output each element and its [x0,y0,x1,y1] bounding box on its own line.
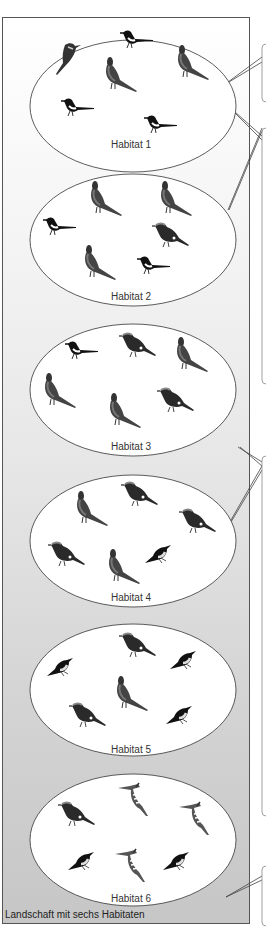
diagram-caption: Landschaft mit sechs Habitaten [5,909,145,920]
habitat-1: Habitat 1 [30,30,236,172]
habitat-label: Habitat 6 [111,893,151,904]
habitat-4: Habitat 4 [30,475,236,607]
habitat-label: Habitat 2 [111,291,151,302]
habitat-diagram: Habitat 1 Habitat 2 Habitat 3 Habitat 4 [0,0,266,932]
habitat-label: Habitat 5 [111,744,151,755]
callout-lines [224,57,262,897]
habitat-label: Habitat 4 [111,592,151,603]
callout-boxes [262,44,266,926]
habitat-3: Habitat 3 [30,324,236,456]
habitat-6: Habitat 6 [30,774,236,906]
habitat-label: Habitat 1 [111,139,151,150]
habitat-label: Habitat 3 [111,441,151,452]
habitat-2: Habitat 2 [30,174,236,306]
habitat-5: Habitat 5 [30,624,236,756]
